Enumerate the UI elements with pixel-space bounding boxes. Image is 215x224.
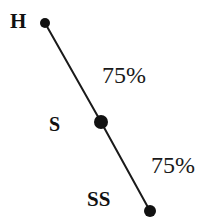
node-label-ss: SS <box>87 189 110 210</box>
edge-label-h-s: 75% <box>102 63 146 87</box>
node-label-h: H <box>10 11 26 32</box>
linkage-diagram: H S SS 75% 75% <box>0 0 215 224</box>
node-dot-ss[interactable] <box>144 205 156 217</box>
node-dot-s[interactable] <box>94 115 108 129</box>
node-label-s: S <box>49 114 60 134</box>
edge-label-s-ss: 75% <box>151 153 195 177</box>
edge-line-h-s <box>45 23 101 122</box>
node-dot-h[interactable] <box>40 18 50 28</box>
